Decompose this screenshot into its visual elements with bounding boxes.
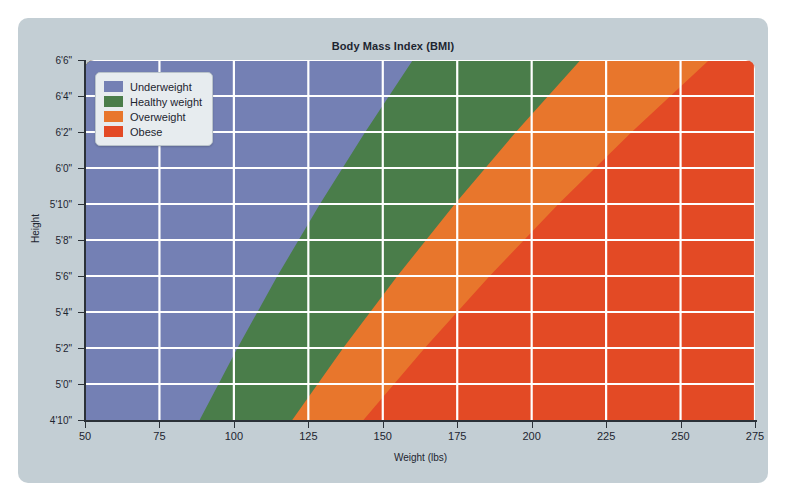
x-tick-label: 125	[299, 430, 317, 442]
x-tick-label: 100	[225, 430, 243, 442]
x-tick-label: 225	[597, 430, 615, 442]
chart-panel: Body Mass Index (BMI) 507510012515017520…	[18, 18, 768, 483]
y-tick-mark	[78, 96, 84, 97]
legend-swatch-underweight	[104, 81, 123, 92]
y-tick-mark	[78, 132, 84, 133]
y-tick-mark	[78, 168, 84, 169]
x-tick-label: 50	[79, 430, 91, 442]
legend-item: Obese	[104, 124, 202, 139]
y-tick-mark	[78, 60, 84, 61]
y-tick-mark	[78, 348, 84, 349]
x-tick-mark	[681, 422, 682, 428]
x-tick-mark	[85, 422, 86, 428]
legend-label: Obese	[130, 126, 162, 138]
y-axis-line	[84, 60, 86, 422]
legend-label: Underweight	[130, 81, 192, 93]
legend-label: Healthy weight	[130, 96, 202, 108]
x-tick-label: 275	[746, 430, 764, 442]
x-tick-mark	[532, 422, 533, 428]
y-tick-mark	[78, 420, 84, 421]
legend-item: Overweight	[104, 109, 202, 124]
legend-label: Overweight	[130, 111, 186, 123]
x-tick-mark	[159, 422, 160, 428]
legend: UnderweightHealthy weightOverweightObese	[95, 72, 213, 146]
x-tick-label: 75	[153, 430, 165, 442]
x-tick-mark	[457, 422, 458, 428]
x-tick-mark	[606, 422, 607, 428]
y-tick-label: 6'4"	[18, 91, 72, 102]
x-tick-mark	[383, 422, 384, 428]
x-tick-label: 150	[374, 430, 392, 442]
y-axis-title: Height	[30, 199, 41, 259]
legend-swatch-overweight	[104, 111, 123, 122]
y-tick-label: 5'8"	[18, 235, 72, 246]
y-tick-label: 5'6"	[18, 271, 72, 282]
x-tick-label: 175	[448, 430, 466, 442]
chart-title: Body Mass Index (BMI)	[18, 40, 768, 52]
y-tick-label: 6'0"	[18, 163, 72, 174]
legend-swatch-obese	[104, 126, 123, 137]
x-tick-mark	[755, 422, 756, 428]
y-tick-label: 5'0"	[18, 379, 72, 390]
y-tick-mark	[78, 312, 84, 313]
legend-item: Healthy weight	[104, 94, 202, 109]
y-tick-label: 6'6"	[18, 55, 72, 66]
x-axis-line	[84, 420, 757, 422]
y-tick-label: 5'2"	[18, 343, 72, 354]
x-tick-mark	[308, 422, 309, 428]
y-tick-label: 5'4"	[18, 307, 72, 318]
x-tick-mark	[234, 422, 235, 428]
x-tick-label: 200	[522, 430, 540, 442]
y-tick-label: 4'10"	[18, 415, 72, 426]
y-tick-mark	[78, 204, 84, 205]
legend-item: Underweight	[104, 79, 202, 94]
bmi-chart-screenshot: Body Mass Index (BMI) 507510012515017520…	[0, 0, 786, 501]
y-tick-mark	[78, 384, 84, 385]
y-tick-mark	[78, 276, 84, 277]
legend-swatch-healthy-weight	[104, 96, 123, 107]
y-tick-label: 6'2"	[18, 127, 72, 138]
x-tick-label: 250	[671, 430, 689, 442]
y-tick-label: 5'10"	[18, 199, 72, 210]
y-tick-mark	[78, 240, 84, 241]
x-axis-title: Weight (lbs)	[84, 452, 757, 463]
